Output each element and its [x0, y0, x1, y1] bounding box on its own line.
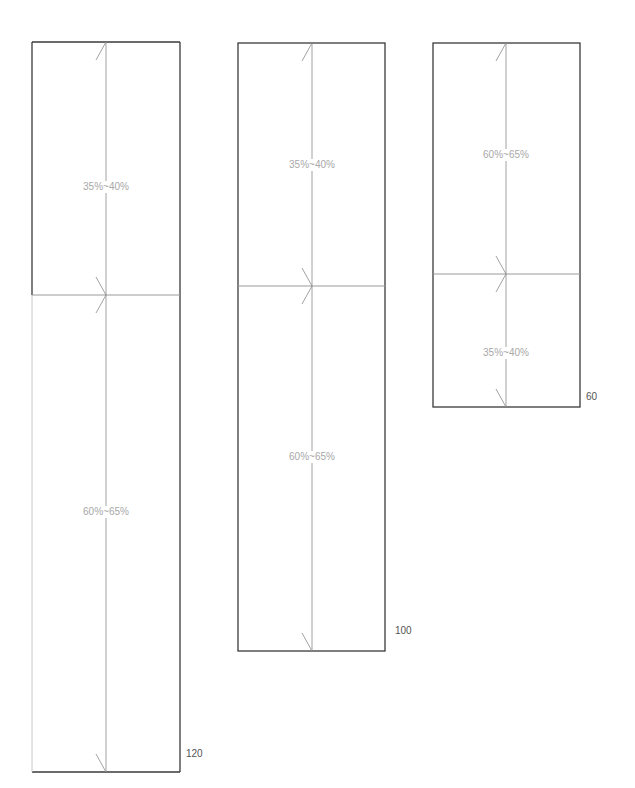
panel-size-label: 120: [186, 748, 203, 759]
tick-mark: [302, 43, 312, 61]
tick-mark: [96, 754, 106, 772]
panels-layer: 35%~40%60%~65%12035%~40%60%~65%10060%~65…: [32, 42, 598, 772]
tick-mark: [496, 274, 506, 292]
section-percent-label: 35%~40%: [483, 347, 529, 358]
section-percent-label: 60%~65%: [289, 451, 335, 462]
panel-size-label: 100: [395, 625, 412, 636]
tick-mark: [302, 286, 312, 304]
tick-mark: [302, 268, 312, 286]
panel-size-label: 60: [586, 391, 598, 402]
panel-outline: [238, 43, 385, 651]
section-percent-label: 60%~65%: [483, 149, 529, 160]
proportion-diagram: 35%~40%60%~65%12035%~40%60%~65%10060%~65…: [0, 0, 635, 788]
tick-mark: [96, 42, 106, 60]
panel-60: 60%~65%35%~40%60: [433, 43, 598, 407]
tick-mark: [96, 277, 106, 295]
section-percent-label: 35%~40%: [289, 159, 335, 170]
panel-100: 35%~40%60%~65%100: [238, 43, 412, 651]
tick-mark: [496, 43, 506, 61]
tick-mark: [302, 633, 312, 651]
tick-mark: [496, 256, 506, 274]
section-percent-label: 60%~65%: [83, 506, 129, 517]
panel-120: 35%~40%60%~65%120: [32, 42, 203, 772]
tick-mark: [496, 389, 506, 407]
tick-mark: [96, 295, 106, 313]
section-percent-label: 35%~40%: [83, 181, 129, 192]
